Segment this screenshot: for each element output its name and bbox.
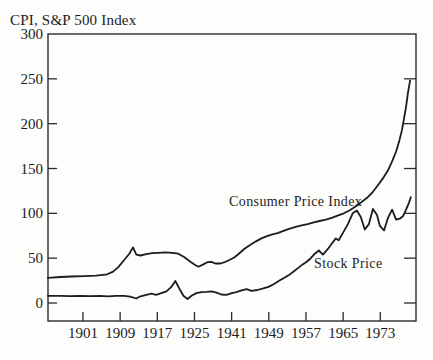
y-tick-label: 150	[21, 161, 44, 177]
y-tick-label: 250	[21, 71, 44, 87]
stock-series-label: Stock Price	[314, 256, 383, 272]
cpi-series-label: Consumer Price Index	[229, 194, 362, 210]
chart-figure: CPI, S&P 500 Index 050100150200250300190…	[0, 0, 433, 360]
y-tick-label: 300	[21, 26, 44, 42]
plot-area: 0501001502002503001901190919171925194119…	[0, 0, 433, 360]
y-tick-label: 200	[21, 116, 44, 132]
x-tick-label: 1917	[142, 325, 173, 341]
x-tick-label: 1941	[217, 325, 247, 341]
x-tick-label: 1925	[179, 325, 209, 341]
x-tick-label: 1973	[365, 325, 395, 341]
x-tick-label: 1965	[328, 325, 358, 341]
plot-frame	[48, 34, 416, 321]
y-tick-label: 100	[21, 205, 44, 221]
x-tick-label: 1909	[105, 325, 135, 341]
stock-series-line	[48, 197, 411, 299]
y-tick-label: 0	[36, 295, 44, 311]
x-tick-label: 1949	[254, 325, 284, 341]
y-tick-label: 50	[28, 250, 43, 266]
x-tick-label: 1957	[291, 325, 322, 341]
cpi-series-line	[48, 81, 410, 278]
x-tick-label: 1901	[68, 325, 98, 341]
